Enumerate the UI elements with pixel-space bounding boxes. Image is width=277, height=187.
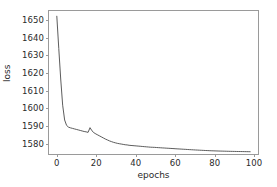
x-tick-label: 40 — [130, 158, 141, 168]
y-tick-label: 1580 — [22, 139, 44, 149]
x-tick-label: 100 — [246, 158, 263, 168]
y-tick-mark — [46, 38, 49, 39]
y-tick-mark — [46, 108, 49, 109]
y-tick-label: 1610 — [22, 86, 44, 96]
y-tick-mark — [46, 55, 49, 56]
x-tick-mark — [215, 154, 216, 157]
y-tick-mark — [46, 20, 49, 21]
y-tick-label: 1590 — [22, 121, 44, 131]
x-tick-mark — [96, 154, 97, 157]
y-tick-mark — [46, 91, 49, 92]
y-tick-label: 1640 — [22, 33, 44, 43]
plot-area: 1580159016001610162016301640165002040608… — [48, 10, 259, 155]
y-tick-mark — [46, 73, 49, 74]
y-tick-label: 1630 — [22, 50, 44, 60]
y-tick-mark — [46, 144, 49, 145]
x-tick-mark — [175, 154, 176, 157]
x-tick-label: 20 — [91, 158, 102, 168]
loss-polyline — [57, 16, 250, 152]
x-tick-label: 0 — [54, 158, 60, 168]
y-axis-label: loss — [2, 65, 12, 82]
y-tick-label: 1620 — [22, 68, 44, 78]
loss-line-series — [49, 11, 258, 154]
x-tick-label: 60 — [170, 158, 181, 168]
x-tick-mark — [136, 154, 137, 157]
x-tick-mark — [254, 154, 255, 157]
x-tick-label: 80 — [209, 158, 220, 168]
x-axis-label: epochs — [48, 170, 259, 180]
y-tick-mark — [46, 126, 49, 127]
x-tick-mark — [57, 154, 58, 157]
y-tick-label: 1600 — [22, 103, 44, 113]
y-tick-label: 1650 — [22, 15, 44, 25]
loss-curve-figure: loss 15801590160016101620163016401650020… — [0, 0, 277, 187]
